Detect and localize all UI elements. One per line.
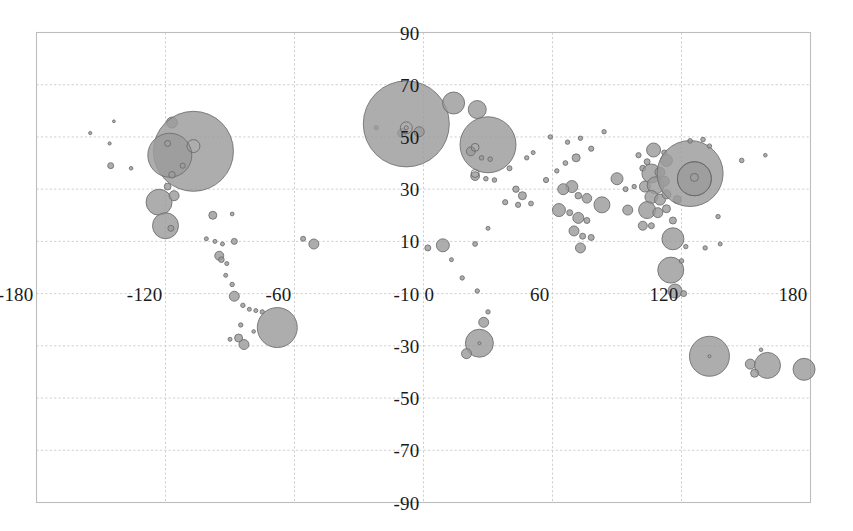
x-tick-label: 0 — [423, 284, 435, 303]
bubble-point — [662, 205, 670, 213]
bubble-point — [148, 133, 192, 177]
bubble-point — [252, 330, 256, 334]
bubble-point — [220, 242, 224, 246]
bubble-point — [492, 178, 497, 183]
bubble-point — [739, 158, 744, 163]
bubble-point — [436, 239, 449, 252]
bubble-point — [701, 137, 706, 142]
bubble-point — [475, 289, 479, 293]
bubble-point — [548, 135, 552, 139]
bubble-point — [231, 238, 237, 244]
bubble-point — [479, 156, 484, 161]
bubble-point — [309, 239, 319, 249]
x-tick-label: 180 — [778, 284, 810, 303]
bubble-point — [611, 173, 623, 185]
bubble-point — [247, 307, 251, 311]
y-tick-label: -10 — [394, 284, 424, 303]
bubble-point — [230, 212, 234, 216]
bubble-point — [580, 233, 586, 239]
x-tick-label: -120 — [127, 284, 166, 303]
bubble-point — [688, 139, 693, 144]
bubble-point — [204, 237, 208, 241]
x-tick-label: 120 — [649, 284, 681, 303]
bubble-point — [573, 212, 584, 223]
bubble-point — [623, 205, 633, 215]
bubble-point — [662, 228, 684, 250]
bubble-point — [225, 262, 229, 266]
y-tick-label: -50 — [394, 389, 424, 408]
bubble-point — [230, 282, 234, 286]
bubble-point — [219, 257, 225, 263]
y-tick-label: 90 — [400, 23, 423, 42]
bubble-point — [169, 191, 179, 201]
bubble-point — [563, 161, 568, 166]
bubble-point — [254, 309, 258, 313]
bubble-point — [764, 153, 768, 157]
y-tick-label: 10 — [400, 232, 423, 251]
bubble-point — [669, 217, 676, 224]
bubble-point — [443, 92, 465, 114]
bubble-point — [759, 348, 763, 352]
bubble-point — [228, 337, 232, 341]
bubble-point — [793, 358, 815, 380]
bubble-point — [241, 303, 245, 307]
bubble-point — [689, 336, 729, 376]
bubble-point — [639, 202, 656, 219]
bubble-point — [473, 242, 478, 247]
bubble-point — [518, 192, 526, 200]
bubble-point — [503, 200, 508, 205]
bubble-point — [707, 144, 711, 148]
y-tick-label: 70 — [400, 75, 423, 94]
bubble-point — [229, 291, 239, 301]
bubble-point — [531, 151, 535, 155]
bubble-point — [486, 310, 490, 314]
x-tick-label: -180 — [0, 284, 37, 303]
bubble-point — [552, 204, 565, 217]
bubble-point — [588, 234, 594, 240]
bubble-point — [636, 153, 641, 158]
bubble-point — [638, 221, 647, 230]
bubble-point — [146, 189, 172, 215]
bubble-point — [513, 186, 519, 192]
bubble-point — [632, 184, 636, 188]
bubble-point — [153, 213, 179, 239]
bubble-point — [425, 245, 431, 251]
bubble-point — [589, 146, 594, 151]
bubble-point — [257, 308, 297, 348]
bubble-point — [653, 208, 663, 218]
bubble-point — [108, 163, 114, 169]
bubble-point — [594, 197, 610, 213]
bubble-point — [647, 143, 661, 157]
bubble-point — [89, 131, 92, 134]
bubble-point — [716, 214, 720, 218]
bubble-scatter-chart: -180-120-60060120180 9070503010-10-30-50… — [0, 0, 853, 531]
bubble-point — [108, 142, 111, 145]
bubble-point — [623, 187, 628, 192]
bubble-point — [169, 172, 176, 179]
bubble-point — [449, 258, 453, 262]
bubble-point — [543, 177, 548, 182]
bubble-point — [507, 166, 512, 171]
y-tick-label: 50 — [400, 127, 423, 146]
bubble-point — [239, 340, 249, 350]
bubble-point — [703, 246, 707, 250]
y-tick-label: -30 — [394, 336, 424, 355]
bubble-point — [460, 276, 464, 280]
bubble-point — [569, 226, 579, 236]
y-tick-label: -90 — [394, 493, 424, 512]
bubble-point — [582, 194, 592, 204]
bubble-point — [479, 317, 489, 327]
bubble-ring-series — [165, 122, 712, 358]
bubble-point — [555, 169, 559, 173]
bubble-point — [213, 239, 217, 243]
bubble-point — [113, 120, 116, 123]
bubble-point — [648, 223, 654, 229]
bubble-point — [575, 192, 582, 199]
bubble-point — [239, 323, 243, 327]
bubble-point — [525, 156, 529, 160]
bubble-series — [89, 81, 815, 380]
bubble-point — [168, 225, 174, 231]
bubble-point — [575, 243, 585, 253]
bubble-point — [488, 157, 493, 162]
bubble-point — [516, 202, 521, 207]
